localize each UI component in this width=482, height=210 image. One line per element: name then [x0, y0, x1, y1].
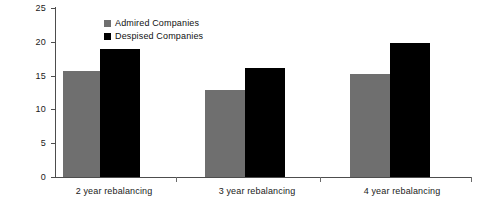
y-axis-tick-label: 25: [0, 3, 46, 13]
bar-admired-companies-1: [205, 90, 245, 177]
y-axis-tick-label: 10: [0, 104, 46, 114]
x-axis-line: [55, 177, 472, 178]
y-axis-tick-label: 0: [0, 172, 46, 182]
legend-swatch-icon-despised: [104, 33, 111, 40]
x-axis-end-tick: [471, 177, 472, 182]
chart-legend: Admired Companies Despised Companies: [104, 18, 203, 41]
y-axis-tick-label: 15: [0, 71, 46, 81]
y-axis-tick: [51, 177, 56, 178]
category-label-0: 2 year rebalancing: [76, 186, 153, 196]
bar-despised-companies-0: [100, 49, 140, 177]
bar-chart: 0510152025 2 year rebalancing3 year reba…: [0, 0, 482, 210]
x-axis-tick: [320, 177, 321, 182]
legend-label-despised: Despised Companies: [115, 31, 203, 41]
legend-item-despised-companies: Despised Companies: [104, 31, 203, 41]
bar-despised-companies-1: [245, 68, 285, 177]
x-axis-tick: [176, 177, 177, 182]
bar-admired-companies-2: [350, 74, 390, 177]
category-label-1: 3 year rebalancing: [219, 186, 296, 196]
y-axis-tick-label: 5: [0, 138, 46, 148]
category-label-2: 4 year rebalancing: [364, 186, 441, 196]
legend-item-admired-companies: Admired Companies: [104, 18, 203, 28]
bar-despised-companies-2: [390, 43, 430, 177]
y-axis-tick-label: 20: [0, 37, 46, 47]
legend-label-admired: Admired Companies: [115, 18, 199, 28]
bar-admired-companies-0: [63, 71, 100, 177]
legend-swatch-icon-admired: [104, 20, 111, 27]
